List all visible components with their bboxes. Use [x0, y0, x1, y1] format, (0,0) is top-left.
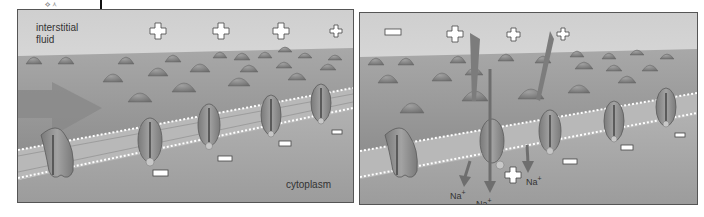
membrane-diagram-resting: interstitial fluid cytoplasm [18, 10, 353, 202]
cropped-pointer-line [100, 0, 102, 9]
negative-charge-icon [385, 29, 401, 35]
label-fluid: fluid [36, 34, 54, 45]
membrane-diagram-depolarizing: Na+ Na+ Na+ [360, 13, 697, 204]
panel-resting-membrane: interstitial fluid cytoplasm [17, 9, 354, 203]
panel-depolarizing-membrane: Na+ Na+ Na+ [359, 12, 698, 205]
label-interstitial: interstitial [36, 22, 78, 33]
ion-label-na-2: Na+ [476, 197, 492, 204]
label-cytoplasm: cytoplasm [286, 179, 331, 190]
